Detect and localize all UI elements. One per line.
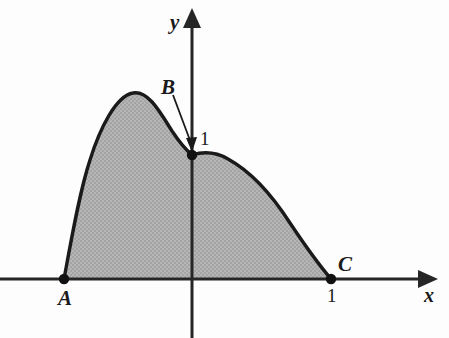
point-c-label: C — [338, 254, 352, 275]
point-a-label: A — [58, 288, 72, 309]
point-b-label: B — [161, 77, 175, 98]
y-axis-label: y — [170, 12, 179, 33]
point-b-dot — [187, 150, 197, 160]
y-axis-arrowhead — [183, 8, 201, 28]
point-c-dot — [326, 274, 336, 284]
shaded-region — [64, 93, 331, 279]
x-axis-label: x — [424, 285, 434, 305]
figure-container: y x A B C 1 1 — [0, 0, 449, 338]
x-axis-tick-label-1: 1 — [327, 286, 337, 305]
y-axis-tick-label-1: 1 — [200, 129, 210, 148]
point-a-dot — [59, 274, 69, 284]
